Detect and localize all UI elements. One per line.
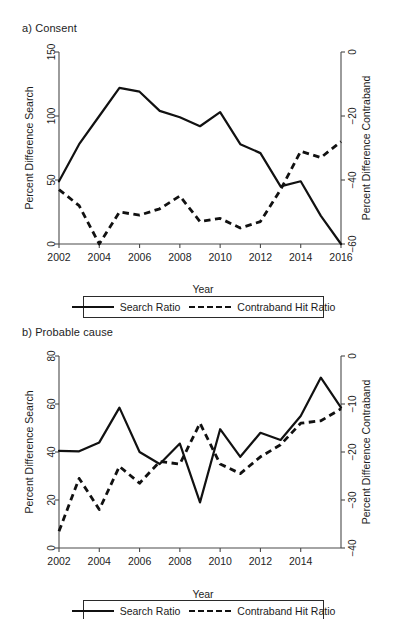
tick-label-bottom: 2006 [128,555,152,567]
panel-b-xaxis-title: Year [0,588,406,600]
tick-label-bottom: 2002 [47,251,71,263]
tick-label-right: −40 [347,171,358,188]
legend-label-contraband: Contraband Hit Ratio [237,605,335,617]
legend-key-search: Search Ratio [72,605,181,617]
tick-label-right: 0 [347,49,358,55]
tick-label-bottom: 2006 [128,251,152,263]
tick-label-bottom: 2012 [249,251,273,263]
panel-consent: a) Consent 0501001500−20−40−602002200420… [0,0,406,310]
tick-label-bottom: 2014 [289,555,313,567]
tick-label-bottom: 2014 [289,251,313,263]
tick-label-right: −20 [347,107,358,124]
tick-label-left: 150 [46,44,57,60]
tick-label-bottom: 2016 [329,251,353,263]
tick-label-right: −40 [347,539,358,556]
tick-label-bottom: 2010 [208,251,232,263]
tick-label-bottom: 2004 [88,555,112,567]
panel-a-plot: 0501001500−20−40−60200220042006200820102… [0,44,406,254]
yaxis-title-left: Percent Difference Search [23,86,35,209]
tick-label-left: 20 [46,494,57,506]
tick-label-left: 80 [46,350,57,362]
tick-label-bottom: 2008 [168,555,192,567]
tick-label-right: −30 [347,491,358,508]
figure-root: a) Consent 0501001500−20−40−602002200420… [0,0,406,619]
tick-label-bottom: 2002 [47,555,71,567]
panel-b-plot: 0204060800−10−20−30−40200220042006200820… [0,348,406,558]
series-line-contraband-hit-ratio [59,142,341,244]
legend-label-search: Search Ratio [120,605,181,617]
yaxis-title-right: Percent Difference Contraband [360,380,372,525]
tick-label-left: 40 [46,446,57,458]
yaxis-title-left: Percent Difference Search [23,390,35,513]
solid-line-icon [72,610,114,612]
tick-label-right: −60 [347,235,358,252]
solid-line-icon [72,306,114,308]
series-line-search-ratio [59,378,341,503]
panel-b-legend: Search Ratio Contraband Hit Ratio [83,600,324,619]
panel-a-xaxis-title: Year [0,283,406,295]
tick-label-left: 60 [46,398,57,410]
tick-label-right: −10 [347,395,358,412]
tick-label-left: 50 [46,174,57,186]
yaxis-title-right: Percent Difference Contraband [360,76,372,221]
tick-label-right: −20 [347,443,358,460]
tick-label-right: 0 [347,353,358,359]
dashed-line-icon [189,610,231,612]
panel-b-svg: 0204060800−10−20−30−40200220042006200820… [0,348,406,588]
panel-probable-cause: b) Probable cause 0204060800−10−20−30−40… [0,310,406,619]
tick-label-left: 100 [46,107,57,124]
tick-label-left: 0 [46,545,57,551]
tick-label-bottom: 2004 [88,251,112,263]
tick-label-bottom: 2010 [208,555,232,567]
tick-label-bottom: 2012 [249,555,273,567]
legend-key-contraband: Contraband Hit Ratio [189,605,335,617]
tick-label-bottom: 2008 [168,251,192,263]
series-line-contraband-hit-ratio [59,409,341,531]
panel-a-title: a) Consent [22,22,77,34]
panel-a-svg: 0501001500−20−40−60200220042006200820102… [0,44,406,284]
tick-label-left: 0 [46,241,57,247]
panel-b-title: b) Probable cause [22,326,113,338]
dashed-line-icon [189,306,231,308]
